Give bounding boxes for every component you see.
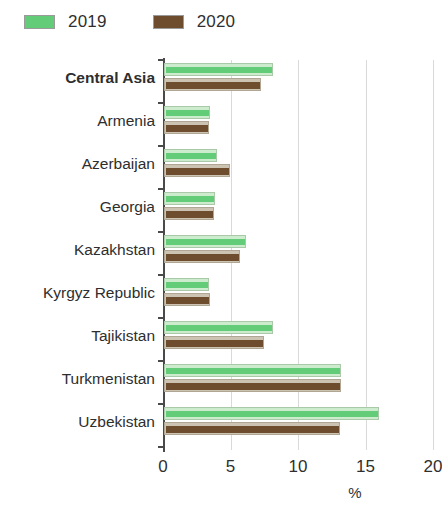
category-label-georgia: Georgia <box>0 198 155 216</box>
category-label-uzbekistan: Uzbekistan <box>0 413 155 431</box>
bar-group <box>164 364 434 394</box>
bar-group <box>164 149 434 179</box>
y-axis-tick <box>158 102 163 104</box>
bar-group <box>164 106 434 136</box>
category-label-armenia: Armenia <box>0 112 155 130</box>
bar-core <box>166 383 340 390</box>
plot-area <box>163 60 433 450</box>
bar-group <box>164 235 434 265</box>
bar-core <box>166 325 272 331</box>
bar-2020 <box>164 78 261 91</box>
category-label-azerbaijan: Azerbaijan <box>0 155 155 173</box>
bar-core <box>166 110 209 116</box>
category-label-kyrgyz-republic: Kyrgyz Republic <box>0 284 155 302</box>
bar-core <box>166 411 378 417</box>
legend-label-2019: 2019 <box>68 12 107 32</box>
chart-legend: 2019 2020 <box>24 12 235 32</box>
category-label-turkmenistan: Turkmenistan <box>0 370 155 388</box>
bar-group <box>164 407 434 437</box>
bar-2020 <box>164 121 209 134</box>
bar-core <box>166 239 245 245</box>
legend-item-2019: 2019 <box>24 12 107 32</box>
x-axis-title-text: % <box>348 484 361 501</box>
bar-core <box>166 168 229 175</box>
bar-core <box>166 254 239 261</box>
bar-2020 <box>164 422 340 435</box>
bar-core <box>166 153 216 159</box>
bar-core <box>166 340 263 347</box>
bar-2020 <box>164 379 341 392</box>
bar-core <box>166 196 214 202</box>
bar-2019 <box>164 192 215 205</box>
bar-2020 <box>164 250 240 263</box>
x-tick-10: 10 <box>289 457 308 477</box>
legend-swatch-2019 <box>24 15 55 29</box>
y-axis-tick <box>158 145 163 147</box>
bar-core <box>166 211 213 218</box>
y-axis-tick <box>158 403 163 405</box>
x-tick-5: 5 <box>226 457 235 477</box>
bar-core <box>166 82 260 89</box>
bar-2019 <box>164 235 246 248</box>
category-label-central-asia: Central Asia <box>0 69 155 87</box>
bar-group <box>164 63 434 93</box>
y-axis-tick <box>158 360 163 362</box>
bar-2019 <box>164 149 217 162</box>
bar-core <box>166 282 208 288</box>
bar-core <box>166 125 208 132</box>
x-axis-title: % <box>0 484 440 501</box>
bar-2020 <box>164 207 214 220</box>
bar-core <box>166 297 209 304</box>
x-tick-15: 15 <box>356 457 375 477</box>
legend-label-2020: 2020 <box>197 12 236 32</box>
bar-group <box>164 278 434 308</box>
bar-core <box>166 368 340 374</box>
category-label-kazakhstan: Kazakhstan <box>0 241 155 259</box>
bar-2020 <box>164 164 230 177</box>
bar-2019 <box>164 407 379 420</box>
bar-group <box>164 192 434 222</box>
category-label-tajikistan: Tajikistan <box>0 327 155 345</box>
bar-2020 <box>164 336 264 349</box>
bar-core <box>166 67 272 73</box>
bar-2019 <box>164 106 210 119</box>
bar-2019 <box>164 278 209 291</box>
y-axis-tick <box>158 274 163 276</box>
y-axis-tick <box>158 59 163 61</box>
y-axis-tick <box>158 231 163 233</box>
y-axis-tick <box>158 446 163 448</box>
bar-group <box>164 321 434 351</box>
y-axis-tick <box>158 317 163 319</box>
x-tick-0: 0 <box>158 457 167 477</box>
bar-2019 <box>164 321 273 334</box>
legend-item-2020: 2020 <box>153 12 236 32</box>
bar-2019 <box>164 63 273 76</box>
bar-2020 <box>164 293 210 306</box>
legend-swatch-2020 <box>153 15 184 29</box>
bar-2019 <box>164 364 341 377</box>
bar-core <box>166 426 339 433</box>
x-tick-20: 20 <box>424 457 442 477</box>
y-axis-tick <box>158 188 163 190</box>
